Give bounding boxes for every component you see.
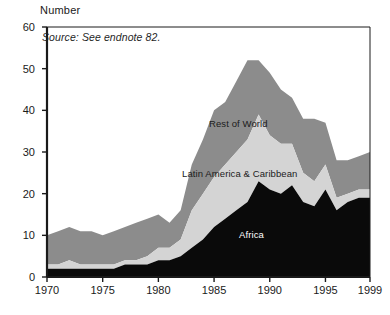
chart-container: Number Source: See endnote 82. 010203040… xyxy=(0,0,390,315)
y-axis-tick-label: 60 xyxy=(9,21,35,33)
x-axis-tick-label: 1970 xyxy=(35,284,59,296)
x-axis-tick-label: 1999 xyxy=(358,284,382,296)
y-axis-tick-label: 50 xyxy=(9,63,35,75)
y-axis-tick-label: 20 xyxy=(9,188,35,200)
source-note: Source: See endnote 82. xyxy=(42,31,160,43)
x-axis-tick-label: 1975 xyxy=(90,284,114,296)
x-axis-tick-label: 1990 xyxy=(258,284,282,296)
y-axis-tick-label: 30 xyxy=(9,146,35,158)
stacked-area-plot xyxy=(0,0,390,315)
y-axis-tick-label: 40 xyxy=(9,104,35,116)
series-label-latin-america-caribbean: Latin America & Caribbean xyxy=(182,168,298,179)
y-axis-unit-label: Number xyxy=(40,4,80,16)
y-axis-tick-label: 10 xyxy=(9,229,35,241)
x-axis-tick-label: 1995 xyxy=(313,284,337,296)
y-axis-tick-label: 0 xyxy=(9,271,35,283)
series-label-africa: Africa xyxy=(239,229,264,240)
series-label-rest-of-world: Rest of World xyxy=(209,118,268,129)
x-axis-tick-label: 1980 xyxy=(146,284,170,296)
x-axis-tick-label: 1985 xyxy=(202,284,226,296)
